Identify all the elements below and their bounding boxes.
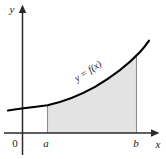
tick-label-a: a — [43, 137, 49, 149]
curve-label-group: y = f(x) — [71, 58, 104, 85]
y-axis-label: y — [9, 3, 15, 15]
y-axis-arrowhead — [19, 5, 26, 14]
x-axis-label: x — [155, 138, 161, 150]
origin-label: 0 — [12, 137, 18, 149]
curve-label: y = f(x) — [71, 58, 104, 85]
area-under-curve-figure: y x 0 a b y = f(x) — [0, 0, 166, 159]
tick-label-b: b — [133, 137, 139, 149]
figure-canvas: y x 0 a b y = f(x) — [0, 0, 166, 159]
x-axis-arrowhead — [151, 129, 160, 137]
